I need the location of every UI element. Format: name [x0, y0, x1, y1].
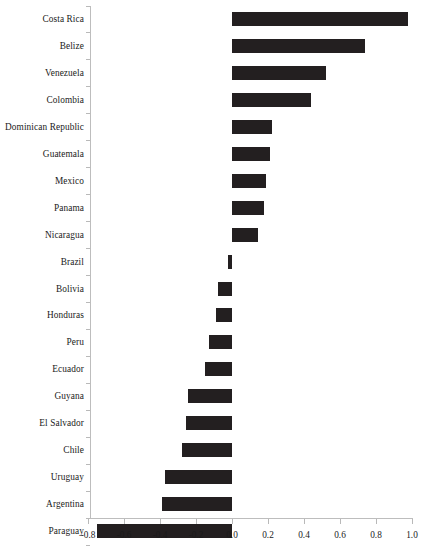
y-axis-label: Paraguay [49, 526, 84, 536]
y-axis-tick [86, 302, 90, 303]
y-axis-label: Belize [60, 41, 84, 51]
y-axis-tick [86, 6, 90, 7]
x-axis-tick [268, 519, 269, 524]
x-axis-tick [196, 519, 197, 524]
y-axis-label: Mexico [55, 176, 84, 186]
bar [232, 39, 365, 53]
bar [162, 497, 232, 511]
y-axis-tick [86, 464, 90, 465]
bar [232, 12, 408, 26]
y-axis-tick [86, 113, 90, 114]
y-axis-label: Uruguay [51, 472, 84, 482]
bar [182, 443, 232, 457]
y-axis-label: Chile [63, 445, 84, 455]
x-axis-tick [232, 519, 233, 524]
bar [232, 228, 258, 242]
y-axis-label: Dominican Republic [5, 122, 84, 132]
x-axis-tick [124, 519, 125, 524]
x-axis-tick-label: 0.6 [334, 530, 346, 540]
bar [232, 120, 272, 134]
y-axis-tick [86, 329, 90, 330]
y-axis-label: Nicaragua [45, 230, 84, 240]
y-axis-label: Peru [67, 337, 84, 347]
y-axis-tick [86, 32, 90, 33]
y-axis-label: Guatemala [43, 149, 84, 159]
y-axis-label: Argentina [46, 499, 84, 509]
x-axis-tick [412, 519, 413, 524]
y-axis-label: Panama [54, 203, 84, 213]
y-axis-tick [86, 248, 90, 249]
x-axis-tick-label: -0.8 [81, 530, 96, 540]
y-axis-tick [86, 59, 90, 60]
y-axis-tick [86, 545, 90, 546]
bar [165, 470, 232, 484]
bar [232, 93, 311, 107]
y-axis-tick [86, 86, 90, 87]
bar [216, 308, 232, 322]
bar [205, 362, 232, 376]
x-axis-tick [340, 519, 341, 524]
y-axis-tick [86, 491, 90, 492]
x-axis-tick [376, 519, 377, 524]
bar [228, 255, 232, 269]
horizontal-bar-chart: Costa RicaBelizeVenezuelaColombiaDominic… [0, 0, 421, 554]
x-axis-tick-label: -0.2 [189, 530, 204, 540]
x-axis-spine [88, 518, 413, 519]
y-axis-tick [86, 410, 90, 411]
y-axis-label: Costa Rica [42, 14, 84, 24]
x-axis-tick-label: 0.2 [262, 530, 274, 540]
x-axis-tick-label: 0.0 [226, 530, 238, 540]
bar [232, 201, 264, 215]
y-axis-tick [86, 194, 90, 195]
y-axis-tick [86, 221, 90, 222]
y-axis-spine [90, 6, 91, 518]
y-axis-label: Guyana [54, 391, 84, 401]
y-axis-tick [86, 140, 90, 141]
bar [209, 335, 232, 349]
bar [232, 147, 270, 161]
bar [186, 416, 232, 430]
y-axis-label: Bolivia [56, 284, 84, 294]
bar [188, 389, 232, 403]
y-axis-label-column: Costa RicaBelizeVenezuelaColombiaDominic… [0, 0, 84, 554]
x-axis-tick-label: 0.4 [298, 530, 310, 540]
bar [218, 282, 232, 296]
x-axis-tick [304, 519, 305, 524]
x-axis-tick-label: 1.0 [406, 530, 418, 540]
x-axis-tick-label: 0.8 [370, 530, 382, 540]
x-axis-tick [88, 519, 89, 524]
x-axis-tick [160, 519, 161, 524]
y-axis-tick [86, 437, 90, 438]
bar [232, 66, 326, 80]
y-axis-tick [86, 356, 90, 357]
x-axis-tick-label: -0.6 [117, 530, 132, 540]
y-axis-label: Venezuela [45, 68, 84, 78]
x-axis-tick-label: -0.4 [153, 530, 168, 540]
y-axis-label: Brazil [61, 257, 84, 267]
y-axis-label: Ecuador [52, 364, 84, 374]
y-axis-tick [86, 275, 90, 276]
y-axis-label: Colombia [47, 95, 84, 105]
y-axis-label: Honduras [47, 310, 84, 320]
bar [232, 174, 266, 188]
y-axis-tick [86, 167, 90, 168]
y-axis-tick [86, 383, 90, 384]
y-axis-label: El Salvador [39, 418, 84, 428]
